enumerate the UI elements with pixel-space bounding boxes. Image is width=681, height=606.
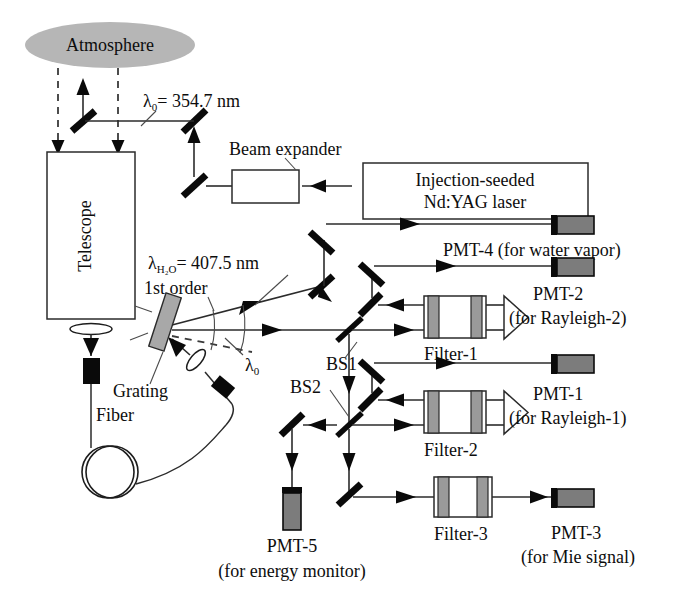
filter-1-band-right <box>471 296 482 338</box>
pmt-3-label: PMT-3 <box>551 523 601 543</box>
pmt-5-flange <box>282 487 302 493</box>
pmt-3-body <box>557 489 594 507</box>
optical-schematic-figure: Atmosphere λ0= 354.7 nm Beam expander <box>0 0 681 606</box>
pmt-1-purpose: (for Rayleigh-1) <box>509 408 626 429</box>
laser-label-line1: Injection-seeded <box>416 170 535 190</box>
pmt-5-body <box>283 493 301 530</box>
pmt-2-body <box>557 258 594 276</box>
filter-3-band-right <box>477 477 488 517</box>
filter-2-label: Filter-2 <box>424 440 478 460</box>
filter-3-band-left <box>438 477 449 517</box>
pmt-1-body <box>557 355 594 373</box>
telescope-label: Telescope <box>75 200 95 272</box>
bs2-label: BS2 <box>290 377 321 397</box>
beam-expander-label: Beam expander <box>229 139 341 159</box>
fiber-label: Fiber <box>96 405 134 425</box>
pmt-3-flange <box>551 488 557 508</box>
lambda0-short-symbol: λ <box>245 355 254 375</box>
laser-label-line2: Nd:YAG laser <box>424 192 526 212</box>
lambda-h2o-value: = 407.5 nm <box>176 253 259 273</box>
bs1-label: BS1 <box>326 354 357 374</box>
laser-group: Injection-seeded Nd:YAG laser <box>363 163 588 219</box>
first-order-label: 1st order <box>144 278 207 298</box>
pmt-4-flange <box>551 215 557 235</box>
pmt-1-label: PMT-1 <box>533 384 583 404</box>
filter-3-label: Filter-3 <box>434 524 488 544</box>
pmt-1-flange <box>551 354 557 374</box>
pmt-4-body <box>557 216 594 234</box>
fiber-coupler <box>83 358 100 384</box>
collector-lens <box>70 324 112 335</box>
atmosphere-label: Atmosphere <box>66 35 154 55</box>
pmt-3-purpose: (for Mie signal) <box>521 547 635 568</box>
lambda0-value: = 354.7 nm <box>157 91 240 111</box>
lambda0-short-subscript: 0 <box>254 365 260 377</box>
pmt-5-label: PMT-5 <box>267 536 317 556</box>
lambda0-label: λ0= 354.7 nm <box>143 91 240 113</box>
pmt-2-purpose: (for Rayleigh-2) <box>509 308 626 329</box>
lidar-optical-diagram: Atmosphere λ0= 354.7 nm Beam expander <box>0 0 681 606</box>
pmt-5-purpose: (for energy monitor) <box>218 561 366 582</box>
lambda-h2o-subscript: H₂O <box>157 263 177 275</box>
filter-2-band-left <box>428 391 439 433</box>
filter-1-label: Filter-1 <box>424 344 478 364</box>
pmt-2-flange <box>551 257 557 277</box>
grating-label: Grating <box>113 381 168 401</box>
beam-expander-box <box>232 170 299 203</box>
lambda-h2o-symbol: λ <box>148 253 157 273</box>
filter-2-band-right <box>471 391 482 433</box>
atmosphere-group: Atmosphere <box>25 22 195 68</box>
filter-1-band-left <box>428 296 439 338</box>
lambda0-symbol: λ <box>143 91 152 111</box>
pmt-2-label: PMT-2 <box>533 284 583 304</box>
